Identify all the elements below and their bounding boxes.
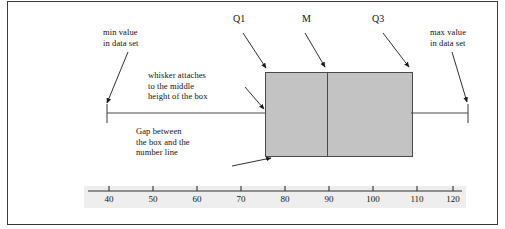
axis-tick-label: 100 [361, 194, 385, 204]
annotation-median: M [302, 14, 311, 25]
axis-tick-label: 90 [317, 194, 341, 204]
annotation-max-value: max value in data set [430, 27, 466, 48]
axis-tick-label: 60 [185, 194, 209, 204]
axis-tick-label: 80 [273, 194, 297, 204]
annotation-q3: Q3 [372, 14, 384, 25]
boxplot-box [265, 72, 413, 157]
annotation-whisker-attaches: whisker attaches to the middle height of… [148, 70, 208, 102]
annotation-min-value: min value in data set [103, 27, 139, 48]
axis-tick-label: 70 [229, 194, 253, 204]
axis-tick-label: 120 [441, 194, 465, 204]
axis-tick-label: 110 [405, 194, 429, 204]
annotation-q1: Q1 [233, 14, 245, 25]
annotation-gap: Gap between the box and the number line [136, 126, 190, 158]
figure-canvas: min value in data set whisker attaches t… [0, 0, 505, 229]
axis-tick-label: 50 [141, 194, 165, 204]
axis-tick-label: 40 [97, 194, 121, 204]
boxplot-median-line [327, 72, 328, 156]
